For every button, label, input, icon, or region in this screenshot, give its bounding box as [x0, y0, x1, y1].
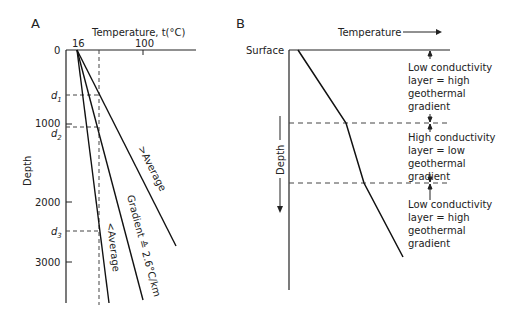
panel-b-label: B: [236, 16, 245, 31]
panel-b-depth-axis-label: Depth: [275, 116, 286, 213]
line-above-average: [77, 50, 176, 246]
x-tick-16: 16: [72, 38, 85, 49]
depth-marker-d3: d3: [51, 226, 62, 240]
layer-1-annotation: Low conductivity layer = high geothermal…: [408, 62, 495, 112]
y-tick-2000: 2000: [35, 197, 60, 208]
panel-a: A Temperature, t(°C) 16 100 0 1000 2000 …: [22, 16, 196, 305]
surface-label: Surface: [246, 45, 284, 56]
geothermal-gradient-figure: A Temperature, t(°C) 16 100 0 1000 2000 …: [0, 0, 507, 316]
arrow-down-icon: [277, 206, 283, 213]
depth-marker-d2: d2: [51, 128, 62, 142]
x-tick-100: 100: [135, 38, 154, 49]
panel-a-label: A: [31, 16, 40, 31]
layer-2-annotation: High conductivity layer = low geothermal…: [408, 132, 499, 182]
temperature-profile-line: [298, 50, 403, 257]
label-below-average: <Average: [105, 222, 122, 272]
panel-b-x-axis-title: Temperature: [337, 27, 401, 38]
panel-b: B Temperature Surface Depth: [236, 16, 499, 290]
arrow-right-icon: [403, 29, 442, 35]
label-above-average: >Average: [136, 144, 168, 193]
line-below-average: [77, 50, 109, 303]
y-tick-3000: 3000: [35, 257, 60, 268]
depth-marker-d1: d1: [51, 90, 62, 104]
panel-a-y-axis-title: Depth: [22, 156, 33, 186]
y-tick-0: 0: [54, 45, 60, 56]
layer-3-annotation: Low conductivity layer = high geothermal…: [408, 199, 495, 249]
panel-b-y-axis-title: Depth: [275, 145, 286, 175]
panel-a-x-axis-title: Temperature, t(°C): [91, 27, 186, 38]
